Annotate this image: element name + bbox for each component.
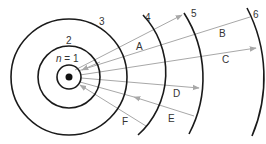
transition-label-e: E [168,113,175,124]
transition-labels: A B C D E F [122,28,229,127]
level-label-n1: n = 1 [56,53,79,64]
bohr-diagram: n = 1 2 3 4 5 6 A B C D E F [0,0,266,144]
level-label-n2: 2 [66,35,72,46]
level-label-n6: 6 [253,9,259,20]
transition-label-d: D [173,88,180,99]
level-label-n4: 4 [145,12,151,23]
level-label-n3: 3 [99,16,105,27]
transition-label-f: F [122,116,128,127]
transition-label-b: B [219,28,226,39]
level-label-n1-eq: = 1 [62,53,79,64]
transition-label-c: C [222,54,229,65]
nucleus-dot [66,74,73,81]
orbit-n6 [247,8,264,136]
transition-label-a: A [136,41,143,52]
transition-arrow-e [134,97,194,116]
level-label-n5: 5 [191,8,197,19]
transition-arrow-c [80,48,256,75]
orbit-n4 [138,15,166,135]
orbits [11,8,264,136]
